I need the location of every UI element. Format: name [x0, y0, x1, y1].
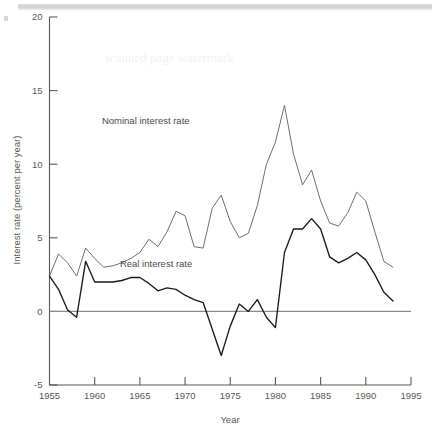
x-tick-label: 1955: [39, 390, 60, 401]
y-tick-label: 10: [32, 159, 43, 170]
y-tick-label: 5: [37, 232, 42, 243]
y-axis-title: Interest rate (percent per year): [11, 136, 22, 265]
x-axis-tick-labels: 195519601965197019751980198519901995: [39, 390, 422, 401]
series-annotations: Nominal interest rateReal interest rate: [102, 115, 192, 269]
x-axis-ticks: [50, 377, 412, 385]
scanner-band-artifact: [18, 4, 432, 10]
scanner-fleck-artifact: [4, 16, 8, 21]
y-tick-label: 15: [32, 85, 43, 96]
watermark-layer: scanned page watermark: [105, 50, 234, 65]
x-tick-label: 1990: [355, 390, 376, 401]
y-axis-ticks: [50, 17, 58, 385]
x-axis-title: Year: [220, 414, 239, 425]
chart-canvas: scanned page watermark -505101520 195519…: [0, 0, 434, 436]
ghost-text-artifact: scanned page watermark: [105, 50, 234, 65]
annotation-real-interest-rate: Real interest rate: [120, 258, 192, 269]
x-tick-label: 1985: [310, 390, 331, 401]
x-tick-label: 1970: [174, 390, 195, 401]
x-tick-label: 1965: [129, 390, 150, 401]
y-tick-label: -5: [34, 379, 42, 390]
series-line-real-interest-rate: [50, 219, 393, 356]
interest-rate-chart: scanned page watermark -505101520 195519…: [0, 0, 434, 436]
x-tick-label: 1980: [265, 390, 286, 401]
series-line-nominal-interest-rate: [50, 105, 393, 276]
annotation-nominal-interest-rate: Nominal interest rate: [102, 115, 190, 126]
x-tick-label: 1995: [400, 390, 421, 401]
y-tick-label: 20: [32, 11, 43, 22]
y-tick-label: 0: [37, 306, 42, 317]
y-axis-tick-labels: -505101520: [32, 11, 43, 390]
x-tick-label: 1975: [220, 390, 241, 401]
x-tick-label: 1960: [84, 390, 105, 401]
data-series-layer: [50, 105, 393, 355]
